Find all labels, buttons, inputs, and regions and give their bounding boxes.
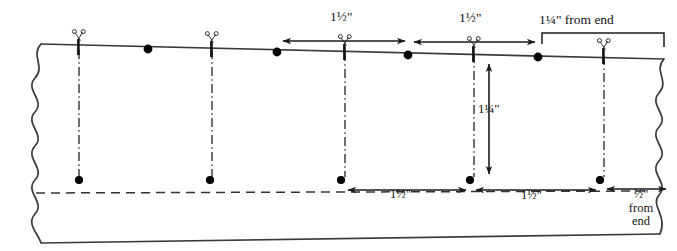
top-end-dim-label: 1¼" from end — [539, 13, 614, 28]
drop-dot-4 — [466, 176, 474, 184]
edge-dot-2 — [273, 48, 282, 57]
top-dim-2-label: 1½" — [459, 11, 481, 26]
edge-dot-1 — [144, 45, 153, 54]
scissors-icon — [597, 39, 610, 64]
drop-lines-group — [79, 50, 604, 177]
scissors-icon — [72, 30, 85, 55]
fabric-outline — [32, 44, 664, 243]
scissors-icon — [205, 32, 218, 57]
guide-line — [36, 191, 650, 193]
top-dim-1-label: 1½" — [330, 10, 352, 25]
top-dimension-arrows — [283, 41, 535, 42]
fabric-left-break-edge — [32, 44, 41, 243]
drop-line-end-dots — [75, 176, 604, 184]
fabric-bottom-edge — [41, 234, 660, 243]
top-end-bracket-path — [542, 33, 664, 47]
bot-end-dim-line3: end — [618, 215, 664, 229]
diagram-canvas: 1½" 1½" 1¼" from end 1¼" 1½" 1½" ½" from… — [0, 0, 677, 251]
scissors-icon — [338, 35, 351, 60]
top-end-bracket — [542, 33, 664, 47]
bot-end-dim-line1: ½" — [618, 188, 664, 202]
bot-end-dim-label: ½" from end — [618, 188, 664, 229]
edge-dot-3 — [404, 51, 413, 60]
bot-dim-2-label: 1½" — [521, 189, 542, 203]
edge-dot-4 — [534, 53, 543, 62]
bot-end-dim-line2: from — [618, 202, 664, 216]
drop-dot-5 — [596, 176, 604, 184]
drop-dot-3 — [337, 176, 345, 184]
fabric-top-edge — [41, 44, 664, 59]
bot-dim-1-label: 1½" — [390, 188, 411, 202]
drop-dot-1 — [75, 176, 83, 184]
drop-dot-2 — [206, 176, 214, 184]
vertical-dim-label: 1¼" — [478, 102, 500, 116]
diagram-svg — [0, 0, 677, 251]
scissors-icon — [467, 37, 480, 62]
